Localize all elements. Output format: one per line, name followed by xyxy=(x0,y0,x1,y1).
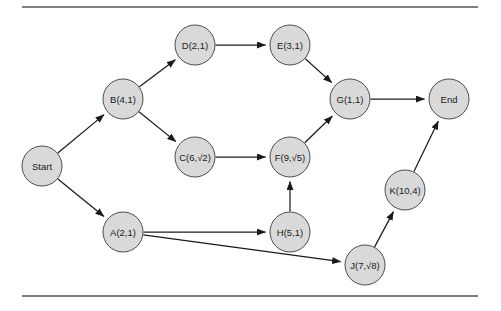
edge-k-end xyxy=(414,121,438,171)
node-circle-f xyxy=(270,137,310,177)
graph-node-start[interactable]: Start xyxy=(22,146,62,186)
graph-node-f[interactable]: F(9,√5) xyxy=(270,137,310,177)
node-circle-h xyxy=(270,212,310,252)
node-circle-a xyxy=(103,212,143,252)
edge-j-k xyxy=(375,212,394,247)
graph-node-d[interactable]: D(2,1) xyxy=(175,25,215,65)
edge-start-a xyxy=(58,179,104,217)
graph-node-j[interactable]: J(7,√8) xyxy=(345,245,385,285)
graph-node-h[interactable]: H(5,1) xyxy=(270,212,310,252)
graph-node-k[interactable]: K(10,4) xyxy=(385,170,425,210)
node-circle-j xyxy=(345,245,385,285)
edge-a-j xyxy=(143,235,340,262)
node-circle-d xyxy=(175,25,215,65)
edge-b-c xyxy=(139,112,176,142)
node-circle-end xyxy=(429,79,469,119)
graph-node-end[interactable]: End xyxy=(429,79,469,119)
edge-start-b xyxy=(58,115,104,153)
horizontal-rules xyxy=(22,7,478,296)
graph-node-c[interactable]: C(6,√2) xyxy=(175,137,215,177)
edge-b-d xyxy=(139,60,175,87)
node-circle-b xyxy=(103,79,143,119)
graph-node-a[interactable]: A(2,1) xyxy=(103,212,143,252)
graph-node-g[interactable]: G(1,1) xyxy=(330,79,370,119)
node-circle-c xyxy=(175,137,215,177)
edge-e-g xyxy=(305,59,332,83)
graph-canvas: StartB(4,1)A(2,1)D(2,1)C(6,√2)E(3,1)F(9,… xyxy=(0,0,501,311)
node-circle-e xyxy=(270,25,310,65)
node-circle-g xyxy=(330,79,370,119)
graph-node-b[interactable]: B(4,1) xyxy=(103,79,143,119)
node-circle-start xyxy=(22,146,62,186)
edge-f-g xyxy=(305,116,333,143)
graph-node-e[interactable]: E(3,1) xyxy=(270,25,310,65)
node-circle-k xyxy=(385,170,425,210)
graph-figure: StartB(4,1)A(2,1)D(2,1)C(6,√2)E(3,1)F(9,… xyxy=(0,0,501,311)
nodes-layer: StartB(4,1)A(2,1)D(2,1)C(6,√2)E(3,1)F(9,… xyxy=(22,25,469,285)
